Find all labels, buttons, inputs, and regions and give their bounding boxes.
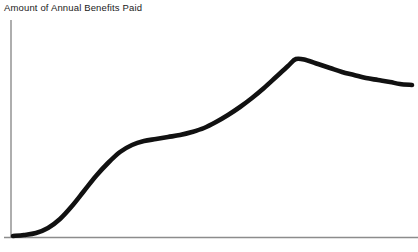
line-chart-plot bbox=[0, 0, 418, 252]
chart-figure: Amount of Annual Benefits Paid bbox=[0, 0, 418, 252]
data-series-line bbox=[13, 59, 412, 236]
